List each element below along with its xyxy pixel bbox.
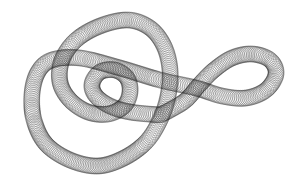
spirograph-artwork — [0, 0, 299, 188]
coil-drawing — [0, 0, 299, 188]
